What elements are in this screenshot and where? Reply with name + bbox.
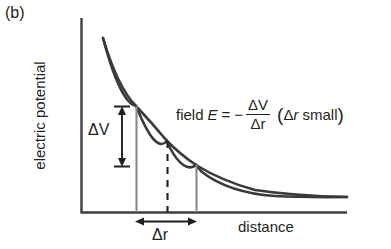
equation-fraction: ΔV Δr [246,97,270,132]
equation-equals: = [222,107,231,122]
equation-field-word: field [176,107,204,122]
y-axis-label: electric potential [32,46,47,186]
x-axis-label: distance [238,219,294,234]
delta-r-arrowhead-right [188,218,197,226]
equation-numerator: ΔV [246,97,270,114]
equation-condition-r: r [293,107,298,122]
delta-v-label: ΔV [88,122,109,138]
field-equation: field E = − ΔV Δr ( Δ r small ) [176,97,344,132]
equation-condition-word: small [302,107,337,122]
delta-r-arrowhead-left [135,218,144,226]
equation-symbol-e: E [208,107,218,122]
equation-close-paren: ) [337,105,343,124]
equation-minus: − [234,107,243,122]
equation-denominator: Δr [249,115,268,132]
figure-electric-potential-vs-distance: (b) electric potential distance ΔV Δr fi… [0,0,391,249]
panel-label: (b) [5,5,25,21]
delta-r-label: Δr [152,227,168,243]
equation-condition-delta: Δ [283,107,293,122]
